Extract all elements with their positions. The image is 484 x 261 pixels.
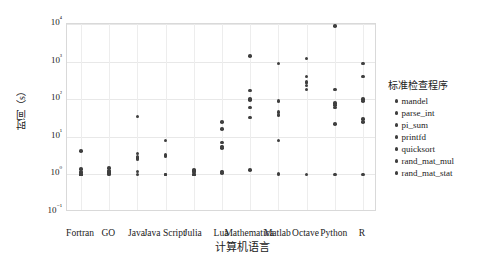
data-point <box>277 110 281 114</box>
data-point <box>79 173 83 177</box>
legend-item[interactable]: parse_int <box>395 107 484 119</box>
y-axis-tick-label: 10⁰ <box>50 168 62 177</box>
data-point <box>248 106 252 110</box>
legend-marker-icon <box>395 135 398 138</box>
data-point <box>333 173 337 177</box>
data-point <box>277 139 281 143</box>
data-point <box>305 84 309 88</box>
data-point <box>277 62 281 66</box>
x-axis-tick-label: Python <box>320 228 347 238</box>
data-point <box>136 115 140 119</box>
data-point <box>248 54 252 58</box>
data-point <box>333 24 337 28</box>
data-point <box>248 98 252 102</box>
gridline-vertical <box>194 24 195 210</box>
legend-item-label: quicksort <box>401 144 435 154</box>
data-point <box>333 103 337 107</box>
data-point <box>248 116 252 120</box>
legend-item[interactable]: rand_mat_stat <box>395 167 484 179</box>
x-axis-tick-label: R <box>359 228 365 238</box>
gridline-horizontal <box>67 99 375 100</box>
gridline-vertical <box>81 24 82 210</box>
data-point <box>164 139 168 143</box>
data-point <box>79 149 83 153</box>
gridline-vertical <box>307 24 308 210</box>
y-axis-title: 时间（s） <box>16 86 32 130</box>
data-point <box>107 169 111 173</box>
legend-item-label: pi_sum <box>401 120 428 130</box>
x-axis-tick-label: Julia <box>184 228 202 238</box>
legend-marker-icon <box>395 99 398 102</box>
legend-item-label: rand_mat_stat <box>401 168 452 178</box>
x-axis-tick-label: GO <box>101 228 115 238</box>
x-axis-tick-label: Octave <box>292 228 319 238</box>
y-axis-tick-label: 10³ <box>51 56 62 65</box>
data-point <box>220 120 224 124</box>
benchmark-scatter-chart: 时间（s） 10⁴10³10²10¹10⁰10⁻¹ FortranGOJavaJ… <box>0 0 484 261</box>
x-axis-tick-label: Matlab <box>264 228 291 238</box>
data-point <box>248 168 252 172</box>
data-point <box>361 99 365 103</box>
gridline-horizontal <box>67 62 375 63</box>
data-point <box>361 117 365 121</box>
data-point <box>333 88 337 92</box>
y-axis-tick-label: 10⁻¹ <box>48 206 62 215</box>
legend-marker-icon <box>395 147 398 150</box>
x-axis-tick-label: Java <box>128 228 145 238</box>
data-point <box>164 155 168 159</box>
data-point <box>305 75 309 79</box>
data-point <box>361 62 365 66</box>
x-axis-title: 计算机语言 <box>0 241 484 253</box>
gridline-vertical <box>109 24 110 210</box>
plot-area <box>66 23 376 211</box>
data-point <box>361 75 365 79</box>
legend-marker-icon <box>395 159 398 162</box>
data-point <box>361 173 365 177</box>
data-point <box>192 169 196 173</box>
data-point <box>220 170 224 174</box>
gridline-vertical <box>335 24 336 210</box>
data-point <box>305 88 309 92</box>
data-point <box>305 173 309 177</box>
data-point <box>192 173 196 177</box>
data-point <box>305 57 309 61</box>
legend-item[interactable]: pi_sum <box>395 119 484 131</box>
data-point <box>277 173 281 177</box>
legend-marker-icon <box>395 171 398 174</box>
y-axis-tick-label: 10¹ <box>51 131 62 140</box>
gridline-vertical <box>222 24 223 210</box>
x-axis-tick-label: Java Script <box>144 228 186 238</box>
data-point <box>136 173 140 177</box>
data-point <box>220 141 224 145</box>
data-point <box>164 173 168 177</box>
y-axis-tick-label: 10² <box>51 93 62 102</box>
gridline-vertical <box>278 24 279 210</box>
data-point <box>248 89 252 93</box>
data-point <box>277 99 281 103</box>
data-point <box>136 158 140 162</box>
data-point <box>220 146 224 150</box>
legend-item[interactable]: mandel <box>395 95 484 107</box>
legend-item[interactable]: quicksort <box>395 143 484 155</box>
x-axis-tick-label: Fortran <box>66 228 94 238</box>
legend-item-label: rand_mat_mul <box>401 156 454 166</box>
y-axis-tick-label: 10⁴ <box>51 18 62 27</box>
legend-item[interactable]: rand_mat_mul <box>395 155 484 167</box>
legend: 标准检查程序 mandelparse_intpi_sumprintfdquick… <box>388 80 484 179</box>
legend-marker-icon <box>395 111 398 114</box>
legend-items: mandelparse_intpi_sumprintfdquicksortran… <box>388 95 484 179</box>
legend-item[interactable]: printfd <box>395 131 484 143</box>
legend-marker-icon <box>395 123 398 126</box>
legend-title: 标准检查程序 <box>388 80 484 92</box>
legend-item-label: parse_int <box>401 108 434 118</box>
legend-item-label: printfd <box>401 132 426 142</box>
gridline-horizontal <box>67 24 375 25</box>
legend-item-label: mandel <box>401 96 428 106</box>
gridline-vertical <box>166 24 167 210</box>
gridline-horizontal <box>67 137 375 138</box>
data-point <box>333 122 337 126</box>
data-point <box>220 127 224 131</box>
